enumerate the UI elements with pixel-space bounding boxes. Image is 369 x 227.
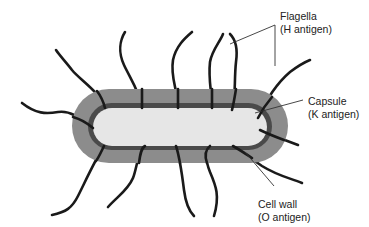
cell-wall-label-line1: Cell wall xyxy=(258,198,311,211)
capsule-label: Capsule (K antigen) xyxy=(308,95,359,121)
capsule-label-line2: (K antigen) xyxy=(308,108,359,121)
cell-wall-label: Cell wall (O antigen) xyxy=(258,198,311,224)
cell-wall-label-line2: (O antigen) xyxy=(258,211,311,224)
cytoplasm xyxy=(93,108,267,146)
flagella-label: Flagella (H antigen) xyxy=(280,10,332,36)
capsule-label-line1: Capsule xyxy=(308,95,359,108)
flagella-label-line2: (H antigen) xyxy=(280,23,332,36)
flagella-label-line1: Flagella xyxy=(280,10,332,23)
